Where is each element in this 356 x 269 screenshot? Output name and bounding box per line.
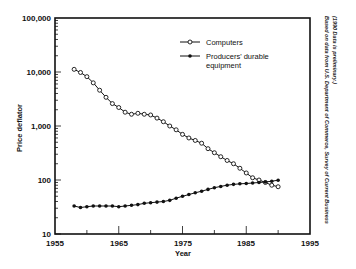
data-point (264, 180, 268, 184)
data-point (130, 112, 134, 116)
data-point (225, 183, 229, 187)
data-point (251, 181, 255, 185)
data-point (149, 201, 153, 205)
data-point (187, 136, 191, 140)
x-axis-title: Year (175, 249, 191, 258)
data-point (155, 200, 159, 204)
data-point (238, 182, 242, 186)
series-layer (72, 67, 280, 209)
data-point (91, 204, 95, 208)
y-tick-label: 10,000 (27, 68, 52, 77)
data-point (72, 204, 76, 208)
data-point (200, 189, 204, 193)
data-point (200, 141, 204, 145)
legend: Computers Producers' durable equipment (180, 38, 269, 70)
data-point (142, 112, 146, 116)
data-point (117, 205, 121, 209)
data-point (142, 202, 146, 206)
data-point (193, 138, 197, 142)
data-point (251, 176, 255, 180)
x-tick-label: 1985 (237, 239, 255, 248)
open-circle-marker-icon (188, 40, 192, 44)
x-axis-ticks (87, 226, 278, 234)
data-point (174, 196, 178, 200)
y-tick-label: 1,000 (31, 122, 52, 131)
data-point (219, 185, 223, 189)
data-point (168, 199, 172, 203)
y-tick-label: 100,000 (22, 14, 51, 23)
data-point (85, 205, 89, 209)
data-point (212, 151, 216, 155)
data-point (98, 204, 102, 208)
data-point (238, 166, 242, 170)
data-point (136, 203, 140, 207)
data-point (181, 132, 185, 136)
data-point (232, 183, 236, 187)
x-tick-label: 1955 (46, 239, 64, 248)
data-point (98, 88, 102, 92)
data-point (161, 120, 165, 124)
series-producers-durable-equipment (72, 178, 280, 209)
data-point (270, 183, 274, 187)
data-point (270, 179, 274, 183)
data-point (104, 204, 108, 208)
price-deflator-chart: 100,000 10,000 1,000 100 10 1955 1965 19… (0, 0, 356, 269)
data-point (206, 147, 210, 151)
data-point (79, 70, 83, 74)
data-point (111, 204, 115, 208)
source-note: Based on data from U.S. Department of Co… (324, 16, 338, 224)
series-computers (72, 67, 280, 188)
source-note-line1: Based on data from U.S. Department of Co… (324, 16, 330, 224)
data-point (162, 200, 166, 204)
x-tick-label: 1995 (301, 239, 319, 248)
legend-label-producers: Producers' durable (206, 52, 269, 61)
plot-frame (55, 18, 310, 234)
data-point (104, 95, 108, 99)
data-point (123, 110, 127, 114)
data-point (110, 102, 114, 106)
x-tick-label: 1965 (110, 239, 128, 248)
data-point (123, 204, 127, 208)
legend-label-producers-cont: equipment (206, 61, 242, 70)
data-point (187, 193, 191, 197)
data-point (257, 181, 261, 185)
data-point (72, 67, 76, 71)
data-point (85, 75, 89, 79)
data-point (225, 158, 229, 162)
source-note-line2: (1990 Data is preliminary.) (332, 16, 338, 84)
legend-label-computers: Computers (206, 38, 243, 47)
data-point (219, 155, 223, 159)
data-point (244, 171, 248, 175)
data-point (130, 204, 134, 208)
data-point (193, 191, 197, 195)
y-axis-title: Price deflator (15, 104, 24, 152)
data-point (181, 194, 185, 198)
data-point (117, 106, 121, 110)
data-point (276, 185, 280, 189)
y-axis-ticks (55, 20, 61, 234)
data-point (206, 188, 210, 192)
x-tick-label: 1975 (174, 239, 192, 248)
data-point (136, 111, 140, 115)
filled-circle-marker-icon (188, 54, 192, 58)
data-point (232, 162, 236, 166)
data-point (149, 113, 153, 117)
data-point (168, 124, 172, 128)
data-point (91, 81, 95, 85)
y-tick-label: 10 (42, 230, 51, 239)
y-tick-label: 100 (38, 176, 52, 185)
data-point (244, 182, 248, 186)
data-point (79, 206, 83, 210)
data-point (174, 128, 178, 132)
data-point (155, 116, 159, 120)
data-point (276, 178, 280, 182)
data-point (213, 186, 217, 190)
